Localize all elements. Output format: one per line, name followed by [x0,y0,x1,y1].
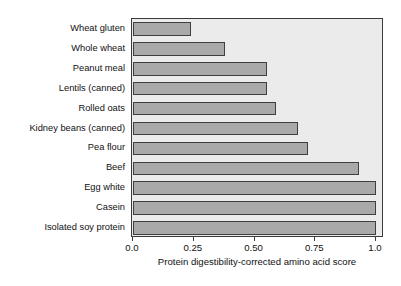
bar [133,42,225,56]
x-axis: 0.00.250.500.751.0 Protein digestibility… [131,237,383,283]
y-axis-tick-label: Kidney beans (canned) [29,123,125,133]
y-axis-category-labels: Wheat glutenWhole wheatPeanut mealLentil… [0,18,128,237]
y-axis-tick-label: Egg white [84,182,125,192]
chart-figure: Wheat glutenWhole wheatPeanut mealLentil… [0,0,401,286]
x-axis-tick-mark [254,237,255,241]
bar [133,22,191,36]
bar [133,181,376,195]
y-axis-tick-label: Isolated soy protein [44,222,125,232]
x-axis-tick-label: 0.25 [183,242,202,253]
x-axis-tick-label: 0.0 [125,242,138,253]
bar [133,62,267,76]
x-axis-title: Protein digestibility-corrected amino ac… [158,256,356,267]
bar [133,221,376,235]
x-axis-tick-label: 1.0 [368,242,381,253]
x-axis-tick-label: 0.75 [305,242,324,253]
y-axis-tick-label: Casein [96,202,125,212]
bar [133,82,267,96]
plot-area [131,18,383,237]
x-axis-tick-mark [132,237,133,241]
bar [133,142,308,156]
bar [133,102,276,116]
x-axis-tick-mark [314,237,315,241]
y-axis-tick-label: Lentils (canned) [59,83,125,93]
bar [133,162,359,176]
y-axis-tick-label: Whole wheat [71,43,125,53]
x-axis-tick-label: 0.50 [244,242,263,253]
bar [133,201,376,215]
bar-series [132,19,382,236]
y-axis-tick-label: Wheat gluten [70,23,125,33]
y-axis-tick-label: Beef [106,162,125,172]
bar [133,122,298,136]
y-axis-tick-label: Peanut meal [73,63,125,73]
x-axis-tick-mark [193,237,194,241]
y-axis-tick-label: Pea flour [88,142,125,152]
y-axis-tick-label: Rolled oats [78,103,125,113]
x-axis-tick-mark [375,237,376,241]
